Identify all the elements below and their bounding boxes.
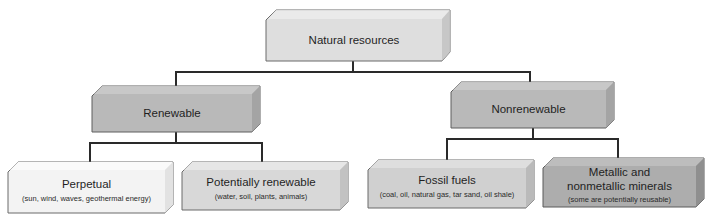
node-title: Renewable [143, 106, 201, 120]
node-title: Potentially renewable [206, 175, 315, 189]
node-title: Fossil fuels [418, 173, 476, 187]
connector-level1-bar [175, 71, 530, 73]
node-examples: (sun, wind, waves, geothermal energy) [22, 193, 151, 204]
node-natural-resources: Natural resources [266, 10, 450, 61]
connector-to-fossil-fuels [446, 138, 448, 161]
node-title: Natural resources [309, 33, 400, 47]
node-potentially-renewable: Potentially renewable (water, soil, plan… [182, 162, 348, 210]
node-minerals: Metallic and nonmetallic minerals (some … [543, 158, 704, 207]
node-fossil-fuels: Fossil fuels (coal, oil, natural gas, ta… [368, 160, 534, 208]
node-title: Nonrenewable [491, 102, 565, 116]
connector-to-minerals [617, 138, 619, 159]
node-title-line1: Metallic and [589, 165, 650, 179]
connector-to-potentially-renewable [261, 142, 263, 163]
node-title: Perpetual [62, 177, 111, 191]
connector-renewable-bar [89, 142, 262, 144]
node-renewable: Renewable [92, 86, 260, 132]
connector-to-perpetual [89, 142, 91, 163]
node-perpetual: Perpetual (sun, wind, waves, geothermal … [8, 162, 173, 213]
connector-nonrenewable-bar [446, 138, 618, 140]
node-examples: (some are potentially reusable) [568, 194, 671, 205]
node-title-line2: nonmetallic minerals [567, 179, 672, 193]
node-nonrenewable: Nonrenewable [451, 82, 614, 128]
node-examples: (water, soil, plants, animals) [215, 191, 308, 202]
node-examples: (coal, oil, natural gas, tar sand, oil s… [380, 189, 515, 200]
connector-to-renewable [175, 71, 177, 87]
